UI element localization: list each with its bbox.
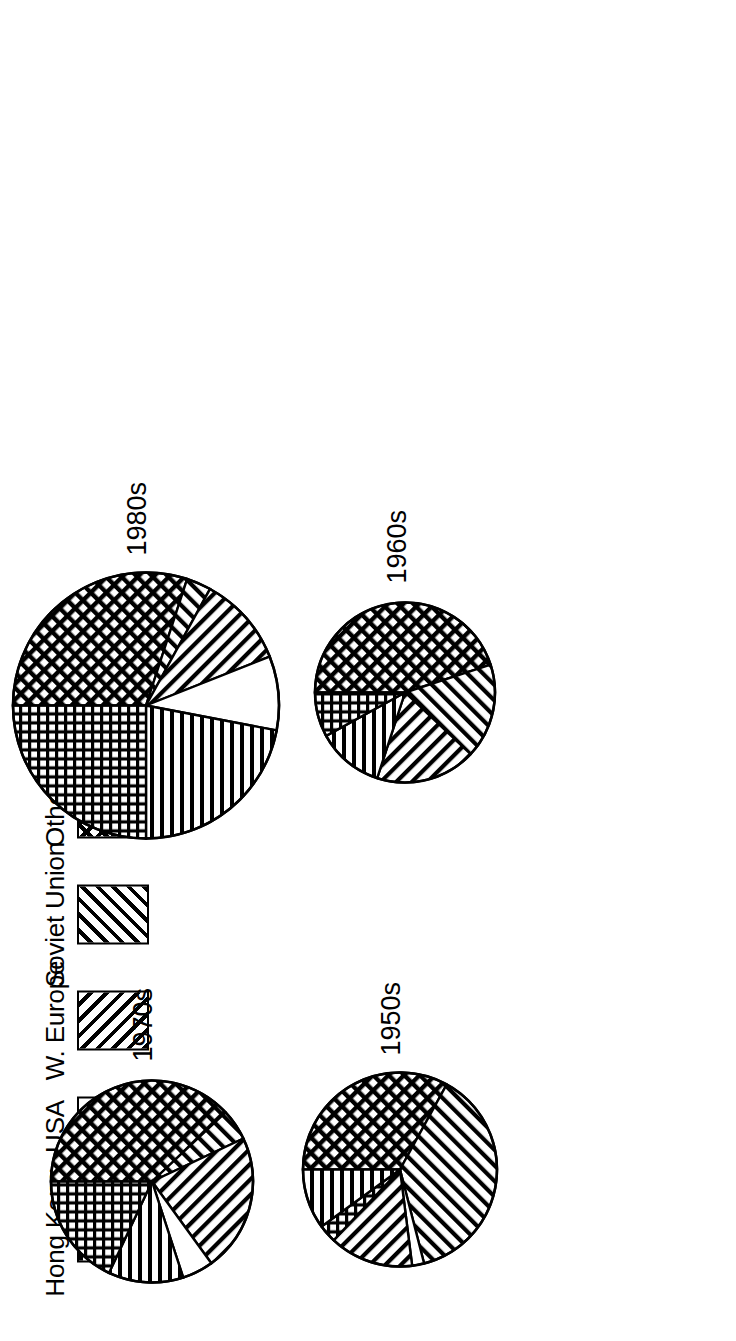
pie-chart-1970s[interactable]: 1970s — [48, 1077, 256, 1285]
legend-label-soviet-union: Soviet Union — [42, 841, 68, 986]
pie-chart-figure: Hong Kong USA W. Europe Soviet Union Oth… — [0, 0, 736, 1341]
pie-slice-jp[interactable] — [13, 705, 146, 838]
pie-label-1960s: 1960s — [384, 509, 411, 583]
legend-swatch-soviet-union-icon — [77, 884, 149, 944]
pie-chart-1950s[interactable]: 1950s — [300, 1069, 500, 1269]
pie-1950s-svg — [300, 1069, 500, 1269]
pie-1960s-svg — [312, 599, 498, 785]
pie-1980s-svg — [10, 569, 282, 841]
pie-label-1980s: 1980s — [124, 481, 151, 555]
pie-label-1970s: 1970s — [130, 987, 157, 1061]
pie-chart-1980s[interactable]: 1980s — [10, 569, 282, 841]
pie-1970s-svg — [48, 1077, 256, 1285]
legend-item-soviet-union[interactable]: Soviet Union — [42, 861, 149, 967]
pie-label-1950s: 1950s — [378, 981, 405, 1055]
pie-chart-1960s[interactable]: 1960s — [312, 599, 498, 785]
